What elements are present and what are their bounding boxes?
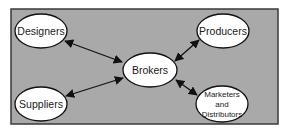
node-suppliers: Suppliers [15, 87, 67, 121]
node-producers: Producers [197, 14, 249, 48]
node-designers: Designers [15, 14, 67, 48]
node-marketers-label-line-2: and [215, 100, 228, 109]
node-producers-label: Producers [199, 25, 247, 37]
node-marketers-distributors: Marketers and Distributors [196, 86, 248, 122]
node-marketers-label-line-1: Marketers [204, 90, 240, 99]
node-marketers-label-line-3: Distributors [202, 110, 242, 119]
broker-network-diagram: Designers Producers Brokers Suppliers Ma… [0, 0, 295, 140]
node-suppliers-label: Suppliers [19, 98, 63, 110]
node-brokers: Brokers [123, 53, 177, 87]
node-brokers-label: Brokers [132, 64, 168, 76]
node-designers-label: Designers [17, 25, 64, 37]
